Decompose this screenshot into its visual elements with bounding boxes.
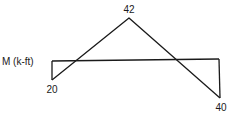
moment-curve — [52, 18, 220, 98]
peak-value-label: 42 — [123, 4, 135, 15]
moment-diagram: M (k-ft) 42 20 40 — [0, 0, 235, 117]
axis-label: M (k-ft) — [2, 56, 34, 67]
left-value-label: 20 — [46, 84, 58, 95]
right-value-label: 40 — [215, 102, 227, 113]
right-end-line — [219, 59, 220, 98]
diagram-lines — [52, 18, 220, 98]
